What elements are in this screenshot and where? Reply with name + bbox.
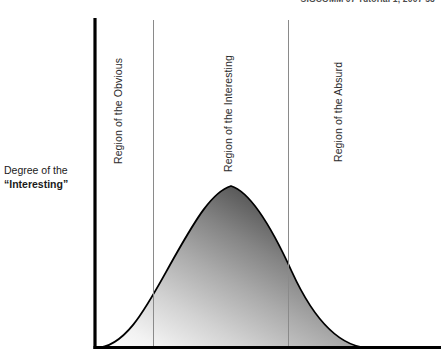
region-label-obvious: Region of the Obvious (112, 58, 124, 164)
region-label-absurd: Region of the Absurd (332, 62, 344, 162)
region-label-interesting: Region of the Interesting (222, 55, 234, 172)
figure-page: SIGCOMM'07 Tutorial 1, 2007 53 (0, 0, 441, 359)
y-axis-caption: Degree of the “Interesting” (4, 163, 90, 191)
y-axis-caption-line1: Degree of the (4, 163, 90, 177)
y-axis-caption-line2: “Interesting” (4, 177, 90, 191)
bell-curve-area (95, 186, 371, 348)
